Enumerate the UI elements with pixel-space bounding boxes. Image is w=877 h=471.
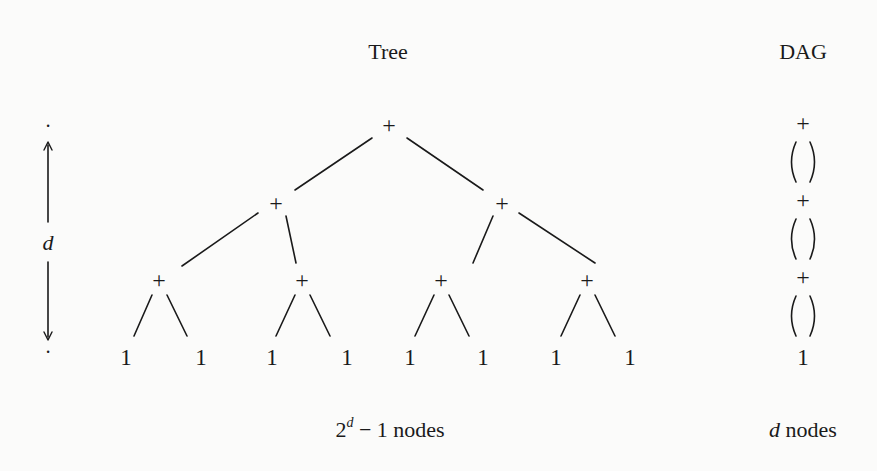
- dag-edge-right: [810, 296, 815, 336]
- dag-node: +: [796, 265, 810, 289]
- edge: [415, 295, 434, 336]
- dag-edge-right: [810, 142, 815, 182]
- depth-bottom-dot: ·: [45, 341, 52, 364]
- tree-leaf: 1: [120, 346, 132, 369]
- dag-caption-var: d: [769, 417, 780, 442]
- edge: [167, 295, 187, 336]
- tree-level3-node: +: [580, 268, 594, 292]
- dag-title: DAG: [779, 39, 827, 65]
- tree-leaf: 1: [341, 346, 353, 369]
- edge: [295, 138, 372, 190]
- edge: [519, 213, 595, 263]
- edge: [449, 295, 469, 336]
- dag-node: +: [796, 111, 810, 135]
- edge: [561, 295, 580, 336]
- tree-level2-node: +: [495, 191, 509, 215]
- tree-leaf: 1: [624, 346, 636, 369]
- dag-edge-left: [792, 142, 797, 182]
- tree-leaf: 1: [266, 346, 278, 369]
- tree-title: Tree: [368, 39, 408, 65]
- tree-leaf: 1: [404, 346, 416, 369]
- dag-edge-left: [792, 219, 797, 259]
- depth-top-dot: ·: [45, 115, 52, 138]
- dag-caption-rest: nodes: [780, 417, 837, 442]
- edge: [473, 216, 493, 263]
- tree-caption-rest: − 1 nodes: [353, 417, 444, 442]
- tree-leaf: 1: [550, 346, 562, 369]
- tree-caption-exponent: d: [346, 415, 353, 430]
- tree-root-node: +: [382, 113, 396, 137]
- dag-node: +: [796, 188, 810, 212]
- tree-leaf: 1: [477, 346, 489, 369]
- edge: [182, 213, 258, 266]
- diagram-canvas: Tree DAG · d · + + + + + + + 1 1 1 1 1 1…: [0, 0, 877, 471]
- tree-level2-node: +: [269, 191, 283, 215]
- tree-level3-node: +: [295, 268, 309, 292]
- dag-edge-right: [810, 219, 815, 259]
- tree-leaf: 1: [195, 346, 207, 369]
- tree-level3-node: +: [434, 268, 448, 292]
- edge: [310, 295, 330, 336]
- edge: [134, 295, 152, 336]
- tree-level3-node: +: [152, 268, 166, 292]
- edge: [276, 295, 295, 336]
- edge: [407, 138, 483, 190]
- dag-leaf: 1: [797, 346, 809, 369]
- depth-label: d: [43, 228, 54, 258]
- edge: [595, 295, 615, 336]
- dag-edge-left: [792, 296, 797, 336]
- edge: [286, 216, 296, 263]
- tree-caption-base: 2: [335, 417, 346, 442]
- tree-caption: 2d − 1 nodes: [335, 417, 444, 443]
- edges-layer: [0, 0, 877, 471]
- dag-caption: d nodes: [769, 417, 837, 443]
